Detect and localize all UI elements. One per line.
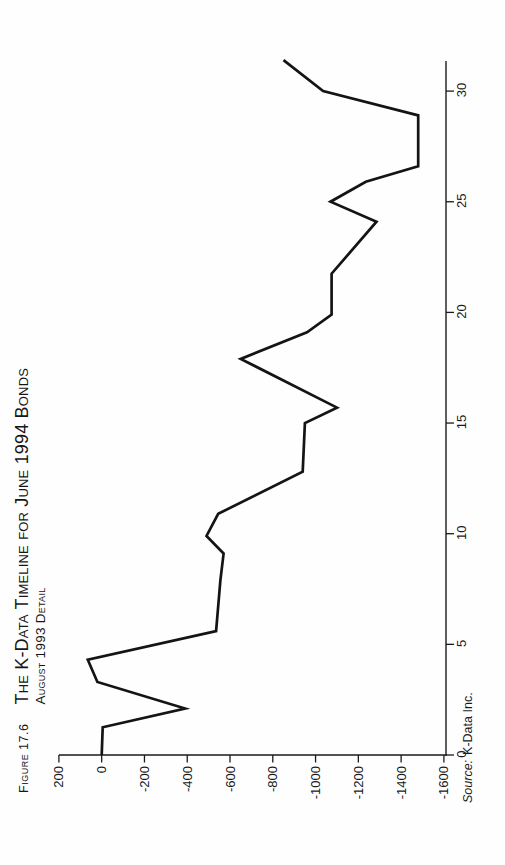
- y-tick-label: 200: [51, 766, 66, 788]
- y-tick-label: -1000: [308, 766, 323, 799]
- timeline-series-line: [88, 60, 418, 755]
- data-series: [88, 60, 418, 755]
- y-tick-label: -200: [137, 766, 152, 792]
- y-tick-label: -400: [180, 766, 195, 792]
- figure-title-line1: The K-Data Timeline for June 1994 Bonds: [13, 368, 31, 705]
- figure-title-block: The K-Data Timeline for June 1994 Bonds …: [13, 368, 50, 705]
- figure-title-line2: August 1993 Detail: [31, 368, 50, 705]
- x-tick-label: 10: [454, 525, 469, 539]
- x-tick-label: 20: [454, 304, 469, 318]
- y-tick-label: -600: [223, 766, 238, 792]
- x-tick-label: 5: [454, 640, 469, 647]
- axis-ticks: [59, 91, 454, 762]
- scanned-page: 2000-200-400-600-800-1000-1200-1400-1600…: [0, 0, 505, 865]
- x-tick-label: 25: [454, 194, 469, 208]
- y-tick-label: -1600: [436, 766, 451, 799]
- figure-number-label: Figure 17.6: [17, 724, 31, 793]
- figure-title: Figure 17.6 The K-Data Timeline for June…: [13, 368, 50, 793]
- axis-tick-labels: 2000-200-400-600-800-1000-1200-1400-1600…: [51, 83, 469, 799]
- source-name: K-Data Inc.: [461, 692, 475, 755]
- y-tick-label: 0: [94, 766, 109, 773]
- rotated-figure-stage: 2000-200-400-600-800-1000-1200-1400-1600…: [0, 0, 505, 865]
- axes: [59, 61, 447, 756]
- line-chart: 2000-200-400-600-800-1000-1200-1400-1600…: [0, 0, 505, 865]
- source-prefix-label: Source:: [461, 760, 475, 803]
- y-tick-label: -1200: [351, 766, 366, 799]
- y-tick-label: -800: [265, 766, 280, 792]
- x-tick-label: 30: [454, 83, 469, 97]
- source-line: Source:K-Data Inc.: [461, 692, 475, 803]
- x-tick-label: 15: [454, 415, 469, 429]
- y-tick-label: -1400: [394, 766, 409, 799]
